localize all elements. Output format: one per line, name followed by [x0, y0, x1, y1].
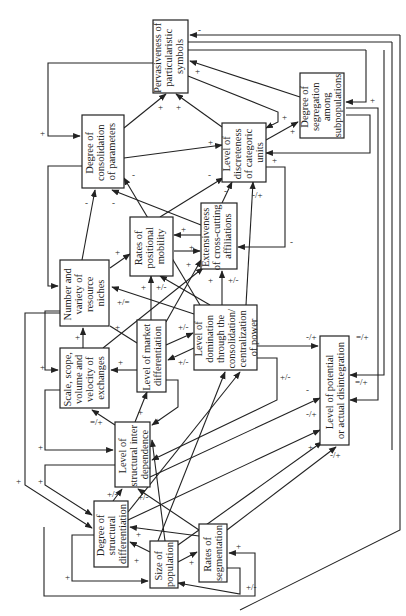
node-segmentation: Rates of segmentation — [199, 524, 227, 582]
svg-text:-: - — [198, 25, 201, 35]
svg-text:+: + — [272, 155, 277, 165]
svg-text:+: + — [40, 362, 45, 372]
svg-text:+: + — [75, 332, 80, 342]
svg-text:-: - — [290, 237, 293, 247]
svg-text:+: + — [40, 128, 45, 138]
svg-text:+: + — [136, 529, 141, 539]
node-pervasiveness: Pervasiveness of particularistic symbols — [152, 20, 189, 93]
svg-text:+: + — [189, 557, 194, 567]
svg-text:Degree of consolidation: Degree of consolidation of parameters — [84, 122, 117, 181]
svg-text:+: + — [208, 275, 213, 285]
svg-text:-/+: -/+ — [306, 409, 317, 419]
svg-text:+: + — [138, 407, 143, 417]
svg-text:+: + — [186, 259, 191, 269]
svg-text:=/+: =/+ — [355, 377, 368, 387]
svg-text:-: - — [85, 198, 88, 208]
svg-text:+: + — [118, 357, 123, 367]
svg-text:+: + — [134, 555, 139, 565]
node-domination: Level of domination through the consolid… — [193, 305, 259, 370]
svg-text:+/=: +/= — [117, 297, 130, 307]
node-disintegration: Level of potential or actual disintegrat… — [320, 336, 349, 445]
node-consolidation: Degree of consolidation of parameters — [82, 115, 124, 188]
node-population: Size of population — [150, 541, 178, 588]
svg-text:+/-: +/- — [228, 275, 239, 285]
svg-text:-: - — [132, 170, 135, 180]
svg-text:+: + — [308, 442, 313, 452]
svg-text:-: - — [306, 385, 309, 395]
svg-text:+/-: +/- — [246, 582, 257, 592]
svg-text:+: + — [115, 322, 120, 332]
node-market: Level of market differentiation — [137, 320, 166, 392]
svg-text:+: + — [38, 476, 43, 486]
svg-text:-/+: -/+ — [252, 190, 263, 200]
svg-text:-: - — [112, 198, 115, 208]
svg-text:+/-: +/- — [178, 322, 189, 332]
svg-text:+/-: +/- — [138, 492, 149, 502]
svg-text:+/-: +/- — [107, 489, 118, 499]
svg-text:+: + — [38, 442, 43, 452]
svg-text:+: + — [189, 242, 194, 252]
svg-text:-: - — [208, 170, 211, 180]
svg-text:+: + — [195, 66, 200, 76]
node-crosscutting: Extensiveness of cross-cutting affiliati… — [200, 202, 237, 270]
svg-text:=/+: =/+ — [356, 332, 369, 342]
node-mobility: Rates of positional mobility — [130, 217, 173, 276]
svg-text:+: + — [158, 102, 163, 112]
node-discreteness: Level of discreteness of categoric units — [221, 123, 266, 182]
svg-text:+: + — [181, 224, 186, 234]
svg-text:+: + — [115, 247, 120, 257]
svg-text:-/+: -/+ — [306, 332, 317, 342]
svg-text:+: + — [176, 102, 181, 112]
svg-text:-: - — [147, 524, 150, 534]
svg-text:+: + — [282, 112, 287, 122]
svg-text:Scale, scope, volume and: Scale, scope, volume and velocity of exc… — [62, 349, 106, 406]
svg-text:+: + — [236, 541, 241, 551]
svg-text:+: + — [141, 282, 146, 292]
node-scale: Scale, scope, volume and velocity of exc… — [60, 348, 109, 408]
diagram-canvas: - + + + + + + + + + - - - -/+ - - - + + … — [0, 0, 406, 616]
svg-text:Level of market differen: Level of market differentiation — [141, 321, 163, 391]
svg-text:-/+: -/+ — [330, 450, 341, 460]
node-niches: Number and variety of resource niches — [60, 260, 109, 326]
svg-text:=/+: =/+ — [90, 417, 103, 427]
svg-text:+: + — [370, 95, 375, 105]
svg-text:-: - — [224, 186, 227, 196]
node-segregation: Degree of segregation among subpopulatio… — [299, 73, 344, 138]
svg-text:+/-: +/- — [280, 372, 291, 382]
svg-text:+/-: +/- — [178, 357, 189, 367]
node-structural-differentiation: Degree of structural differentiation — [94, 501, 128, 567]
svg-text:+: + — [155, 415, 160, 425]
svg-text:Level of potential or ac: Level of potential or actual disintegrat… — [324, 341, 346, 439]
svg-text:+: + — [65, 572, 70, 582]
node-interdependence: Level of structural inter dependence — [115, 422, 150, 487]
svg-text:+: + — [208, 137, 213, 147]
svg-text:+: + — [290, 126, 295, 136]
svg-text:+/-: +/- — [156, 282, 167, 292]
causal-diagram: - + + + + + + + + + - - - -/+ - - - + + … — [0, 0, 406, 616]
svg-text:Rates of positional: Rates of positional mobility — [133, 224, 166, 268]
svg-text:+: + — [16, 476, 21, 486]
